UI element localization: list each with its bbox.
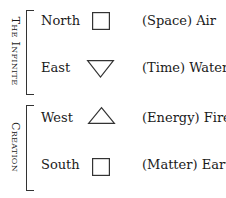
direction-east: East bbox=[41, 60, 70, 76]
element-earth: (Matter) Earth bbox=[142, 157, 226, 173]
direction-west: West bbox=[41, 110, 73, 126]
element-fire: (Energy) Fire bbox=[142, 110, 226, 126]
square-icon bbox=[92, 158, 110, 176]
element-water: (Time) Water bbox=[142, 60, 226, 76]
element-air: (Space) Air bbox=[142, 13, 216, 29]
inverted-triangle-icon bbox=[87, 60, 114, 78]
group-label-creation: Creation bbox=[8, 105, 22, 189]
square-icon bbox=[92, 12, 110, 30]
group-label-infinite: The Infinite bbox=[8, 9, 22, 93]
group-bracket-creation bbox=[26, 105, 34, 191]
triangle-icon bbox=[88, 107, 115, 124]
group-bracket-infinite bbox=[26, 10, 34, 95]
direction-south: South bbox=[41, 157, 80, 173]
direction-north: North bbox=[41, 13, 80, 29]
